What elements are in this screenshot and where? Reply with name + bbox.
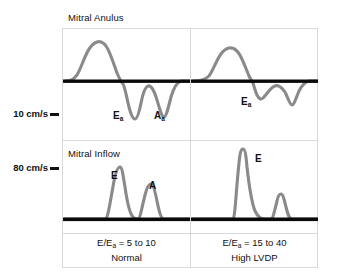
- caption-normal-description: Normal: [63, 251, 190, 265]
- caption-normal-ratio-subscript: a: [112, 242, 116, 249]
- caption-separator: [62, 233, 318, 234]
- wave-label-a-inflow-normal: A: [149, 180, 156, 191]
- waveform-mitral-inflow-normal: [63, 141, 190, 233]
- caption-normal-ratio-suffix: = 5 to 10: [116, 237, 156, 248]
- caption-high-ratio-prefix: E/E: [222, 237, 237, 248]
- scale-label-inflow: 80 cm/s: [0, 162, 48, 173]
- wave-label-aa-anulus-normal: Aa: [154, 110, 165, 121]
- waveform-mitral-anulus-high-lvdp: [191, 29, 318, 140]
- section-title-mitral-anulus: Mitral Anulus: [68, 12, 124, 23]
- caption-normal: E/Ea = 5 to 10 Normal: [63, 236, 190, 266]
- caption-high-description: High LVDP: [191, 251, 318, 265]
- wave-label-ea-anulus-normal: Ea: [113, 110, 123, 121]
- wave-label-ea-right-main: E: [241, 96, 248, 107]
- caption-high-lvdp: E/Ea = 15 to 40 High LVDP: [191, 236, 318, 266]
- caption-high-ratio: E/Ea = 15 to 40: [222, 237, 286, 248]
- doppler-waveform-figure: Mitral Anulus Mitral Inflow 10 cm/s 80 c…: [0, 0, 340, 279]
- caption-high-ratio-suffix: = 15 to 40: [241, 237, 286, 248]
- wave-label-aa-subscript: a: [161, 115, 165, 122]
- caption-normal-ratio-prefix: E/E: [97, 237, 112, 248]
- wave-label-e-inflow-high-lvdp: E: [255, 153, 262, 164]
- wave-label-ea-right-subscript: a: [248, 101, 252, 108]
- caption-normal-ratio: E/Ea = 5 to 10: [97, 237, 156, 248]
- scale-tick-anulus: [50, 113, 59, 116]
- caption-high-ratio-subscript: a: [238, 242, 242, 249]
- wave-label-ea-subscript: a: [120, 115, 124, 122]
- wave-label-ea-anulus-high-lvdp: Ea: [241, 96, 251, 107]
- waveform-mitral-anulus-normal: [63, 29, 190, 140]
- scale-label-anulus: 10 cm/s: [0, 108, 48, 119]
- wave-label-e-inflow-normal: E: [111, 170, 118, 181]
- scale-tick-inflow: [50, 167, 59, 170]
- wave-label-ea-main: E: [113, 110, 120, 121]
